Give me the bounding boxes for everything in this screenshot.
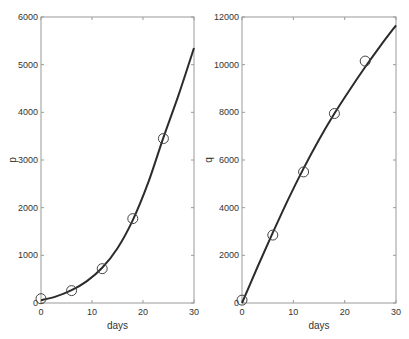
y-tick-label: 12000 bbox=[214, 12, 239, 22]
y-tick-label: 0 bbox=[33, 298, 38, 308]
y-tick-label: 10000 bbox=[214, 60, 239, 70]
x-tick-label: 20 bbox=[138, 307, 148, 317]
fit-curve bbox=[242, 25, 396, 303]
y-tick-label: 6000 bbox=[18, 12, 38, 22]
y-tick-label: 8000 bbox=[219, 107, 239, 117]
x-tick-label: 30 bbox=[189, 307, 199, 317]
y-tick-label: 1000 bbox=[18, 250, 38, 260]
y-tick-label: 5000 bbox=[18, 60, 38, 70]
x-tick-label: 0 bbox=[239, 307, 244, 317]
y-tick-label: 4000 bbox=[219, 203, 239, 213]
x-axis-label: days bbox=[107, 320, 128, 331]
y-axis-label: p bbox=[7, 157, 18, 163]
x-tick-label: 20 bbox=[340, 307, 350, 317]
x-tick-label: 10 bbox=[87, 307, 97, 317]
plot-p: 01020300100020003000400050006000daysp bbox=[7, 12, 199, 331]
y-axis-label: q bbox=[203, 157, 214, 163]
y-tick-label: 2000 bbox=[18, 203, 38, 213]
y-tick-label: 6000 bbox=[219, 155, 239, 165]
fit-curve bbox=[41, 48, 194, 300]
figure: 01020300100020003000400050006000daysp 01… bbox=[0, 0, 409, 339]
axes-frame bbox=[41, 17, 194, 303]
plot-q: 0102030020004000600080001000012000daysq bbox=[203, 12, 401, 331]
x-axis-label: days bbox=[308, 320, 329, 331]
y-tick-label: 3000 bbox=[18, 155, 38, 165]
y-tick-label: 2000 bbox=[219, 250, 239, 260]
axes-frame bbox=[242, 17, 396, 303]
y-tick-label: 4000 bbox=[18, 107, 38, 117]
x-tick-label: 10 bbox=[288, 307, 298, 317]
x-tick-label: 30 bbox=[391, 307, 401, 317]
x-tick-label: 0 bbox=[38, 307, 43, 317]
